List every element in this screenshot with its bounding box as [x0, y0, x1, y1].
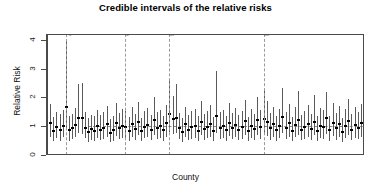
y-tick-1 [41, 126, 46, 127]
y-tick-label: 4 [28, 33, 37, 45]
y-tick-label-wrap: 1 [26, 121, 38, 131]
y-tick-label-wrap: 0 [26, 150, 38, 160]
chart-root: Credible intervals of the relative risks… [0, 0, 371, 195]
y-tick-label: 2 [28, 91, 37, 103]
y-tick-label-wrap: 3 [26, 64, 38, 74]
y-tick-2 [41, 97, 46, 98]
y-tick-label: 0 [28, 149, 37, 161]
y-tick-label-wrap: 2 [26, 92, 38, 102]
y-tick-0 [41, 155, 46, 156]
y-tick-4 [41, 40, 46, 41]
y-tick-label: 3 [28, 62, 37, 74]
y-tick-label-wrap: 4 [26, 35, 38, 45]
y-tick-label: 1 [28, 120, 37, 132]
page-title: Credible intervals of the relative risks [0, 2, 371, 13]
plot-frame [47, 34, 364, 155]
y-axis-label: Relative Risk [12, 51, 22, 131]
x-axis-label: County [0, 172, 371, 182]
y-tick-3 [41, 69, 46, 70]
